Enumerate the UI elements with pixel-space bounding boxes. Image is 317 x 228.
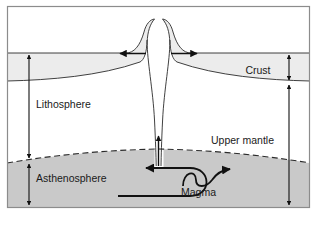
label-magma: Magma	[181, 186, 216, 198]
label-lithosphere: Lithosphere	[36, 98, 91, 110]
figure-caption	[3, 216, 123, 225]
label-asthenosphere: Asthenosphere	[36, 172, 107, 184]
figure-root: Lithosphere Asthenosphere Crust Upper ma…	[0, 0, 317, 228]
label-crust: Crust	[245, 64, 270, 76]
label-upper-mantle: Upper mantle	[211, 134, 274, 146]
mid-ocean-ridge-diagram: Lithosphere Asthenosphere Crust Upper ma…	[0, 0, 317, 228]
